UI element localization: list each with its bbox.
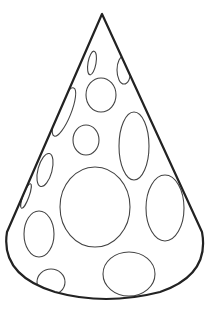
hat-dot: [103, 252, 155, 296]
hat-dot: [34, 152, 56, 188]
hat-dot: [86, 78, 116, 112]
hat-dot: [73, 125, 99, 155]
hat-dots: [19, 50, 184, 296]
hat-dot: [60, 167, 130, 247]
party-hat-drawing: [0, 0, 209, 312]
hat-dot: [24, 211, 54, 257]
hat-dot: [146, 175, 184, 241]
hat-dot: [119, 112, 149, 180]
hat-dot: [86, 50, 98, 75]
